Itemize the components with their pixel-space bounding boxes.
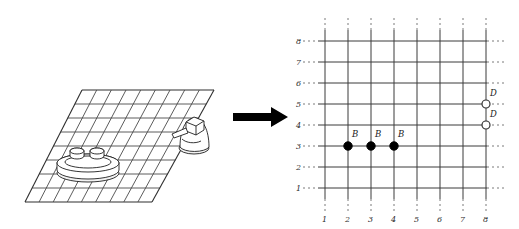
vertical-grid-lines: [325, 30, 486, 199]
robot-arm: [172, 117, 209, 154]
vertical-dashed-extensions: [325, 18, 486, 211]
data-points-b: B B B: [344, 129, 404, 150]
y-axis-tick-8: 8: [296, 37, 301, 46]
transform-arrow: [233, 107, 288, 127]
data-point-label-b-3: B: [397, 129, 404, 139]
x-axis-tick-1: 1: [322, 215, 327, 224]
data-point-label-d-2: D: [489, 109, 497, 119]
data-point-b-3: [390, 142, 398, 150]
y-axis-tick-5: 5: [296, 100, 301, 109]
horizontal-dashed-extensions: [303, 41, 506, 188]
coordinate-grid: 8 7 6 5 4 3 2 1 1 2 3 4 5 6 7 8: [295, 18, 506, 224]
x-axis-tick-7: 7: [460, 215, 466, 224]
horizontal-grid-lines: [318, 41, 487, 188]
y-axis-labels: 8 7 6 5 4 3 2 1: [295, 37, 302, 193]
x-axis-tick-2: 2: [344, 215, 350, 224]
y-axis-tick-3: 3: [296, 142, 301, 151]
y-axis-tick-4: 4: [295, 121, 301, 130]
x-axis-tick-6: 6: [437, 215, 442, 224]
figure-svg: 8 7 6 5 4 3 2 1 1 2 3 4 5 6 7 8: [0, 0, 519, 229]
perspective-grid-scene: [25, 90, 214, 202]
data-point-d-2: [482, 121, 490, 129]
data-point-label-d-1: D: [489, 88, 497, 98]
robot-disc: [57, 148, 119, 182]
y-axis-tick-7: 7: [296, 58, 302, 67]
x-axis-labels: 1 2 3 4 5 6 7 8: [322, 215, 488, 224]
data-point-b-1: [344, 142, 352, 150]
data-point-d-1: [482, 100, 490, 108]
x-axis-tick-3: 3: [368, 215, 373, 224]
x-axis-tick-5: 5: [414, 215, 419, 224]
figure-root: 8 7 6 5 4 3 2 1 1 2 3 4 5 6 7 8: [0, 0, 519, 229]
y-axis-tick-6: 6: [296, 79, 301, 88]
data-point-label-b-1: B: [351, 129, 358, 139]
x-axis-tick-8: 8: [483, 215, 488, 224]
x-axis-tick-4: 4: [390, 215, 396, 224]
data-points-d: D D: [482, 88, 497, 129]
y-axis-tick-1: 1: [296, 184, 301, 193]
y-axis-tick-2: 2: [295, 163, 301, 172]
data-point-b-2: [367, 142, 375, 150]
data-point-label-b-2: B: [374, 129, 381, 139]
